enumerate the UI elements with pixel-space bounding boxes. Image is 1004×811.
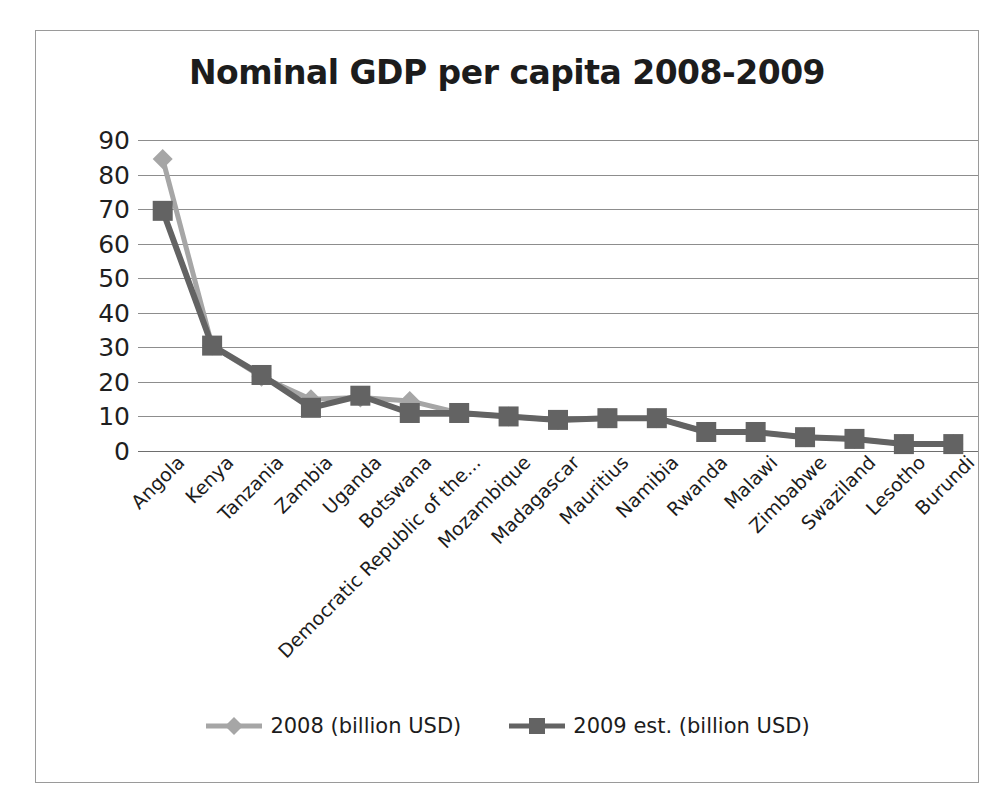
x-axis: AngolaKenyaTanzaniaZambiaUgandaBotswanaD… [138,451,978,651]
data-point-square [252,365,272,385]
y-tick-label: 80 [98,162,130,187]
y-tick-label: 50 [98,266,130,291]
legend-label-2009: 2009 est. (billion USD) [573,714,809,738]
legend-item-2009[interactable]: 2009 est. (billion USD) [507,714,809,738]
x-tick-label-text: Angola [126,451,188,513]
y-tick-label: 20 [98,369,130,394]
y-tick-label: 70 [98,197,130,222]
plot-area [138,105,978,451]
y-tick-label: 90 [98,128,130,153]
data-point-square [153,201,173,221]
series-2008 [153,149,964,454]
y-axis: 9080706050403020100 [58,105,130,451]
series-line [163,211,954,444]
scan-artifact-strip [0,0,1004,22]
y-tick-label: 60 [98,231,130,256]
series-layer [138,105,978,451]
legend-item-2008[interactable]: 2008 (billion USD) [204,714,461,738]
diamond-marker-icon [204,715,264,737]
legend-label-2008: 2008 (billion USD) [270,714,461,738]
y-tick-label: 30 [98,335,130,360]
chart-title: Nominal GDP per capita 2008-2009 [36,53,978,92]
series-line [163,159,954,444]
chart-legend: 2008 (billion USD) 2009 est. (billion US… [36,714,978,738]
y-tick-label: 0 [114,439,130,464]
chart-frame: Nominal GDP per capita 2008-2009 9080706… [35,30,979,783]
data-point-diamond [153,149,173,169]
square-marker-icon [507,715,567,737]
y-tick-label: 40 [98,300,130,325]
y-tick-label: 10 [98,404,130,429]
data-point-square [202,336,222,356]
